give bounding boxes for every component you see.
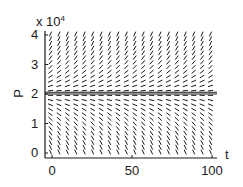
slope-segment: [116, 80, 121, 82]
slope-segment: [150, 150, 152, 155]
slope-segment: [150, 70, 154, 73]
slope-segment: [208, 104, 213, 106]
slope-segment: [124, 117, 128, 121]
slope-segment: [183, 108, 188, 111]
slope-segment: [200, 75, 204, 78]
slope-segment: [133, 65, 137, 69]
slope-segment: [83, 140, 86, 145]
slope-segment: [208, 70, 212, 73]
slope-segment: [125, 122, 128, 126]
slope-segment: [99, 126, 102, 130]
y-tick-label: 1: [31, 117, 38, 130]
slope-segment: [66, 56, 69, 60]
slope-segment: [75, 145, 77, 150]
slope-segment: [66, 65, 70, 69]
slope-segment: [65, 117, 69, 121]
slope-segment: [150, 117, 154, 121]
slope-segment: [99, 56, 102, 60]
slope-segment: [100, 145, 102, 150]
slope-segment: [108, 131, 111, 135]
slope-segment: [66, 140, 69, 145]
slope-segment: [192, 60, 195, 64]
slope-segment: [108, 126, 111, 130]
slope-segment: [192, 140, 195, 145]
slope-segment: [159, 46, 162, 50]
slope-segment: [150, 60, 153, 64]
slope-segment: [142, 46, 145, 50]
slope-segment: [99, 108, 104, 111]
slope-segment: [48, 75, 52, 78]
slope-segment: [193, 150, 195, 155]
slope-segment: [159, 131, 162, 135]
slope-segment: [83, 60, 86, 64]
slope-segment: [175, 70, 179, 73]
slope-segment: [142, 41, 144, 46]
slope-segment: [91, 136, 94, 140]
slope-segment: [174, 80, 179, 82]
slope-segment: [208, 90, 213, 91]
slope-segment: [201, 32, 203, 37]
slope-segment: [82, 108, 87, 111]
slope-segment: [116, 108, 121, 111]
slope-segment: [149, 100, 154, 101]
slope-segment: [91, 60, 94, 64]
slope-segment: [99, 60, 102, 64]
slope-segment: [91, 41, 93, 46]
slope-segment: [192, 131, 195, 135]
slope-segment: [183, 122, 186, 126]
slope-segment: [167, 140, 170, 145]
slope-segment: [75, 150, 77, 155]
slope-segment: [184, 126, 187, 130]
slope-segment: [83, 41, 85, 46]
slope-segment: [74, 113, 78, 116]
slope-segment: [58, 145, 60, 150]
slope-segment: [159, 145, 161, 150]
slope-segment: [58, 32, 60, 37]
slope-segment: [158, 113, 162, 116]
slope-segment: [200, 80, 205, 82]
slope-segment: [125, 46, 128, 50]
slope-segment: [73, 90, 78, 91]
slope-segment: [132, 85, 137, 87]
slope-segment: [74, 65, 78, 69]
slope-segment: [100, 32, 102, 37]
slope-segment: [74, 126, 77, 130]
y-tick-label: 3: [31, 58, 38, 71]
slope-segment: [192, 56, 195, 60]
slope-segment: [66, 122, 69, 126]
slope-segment: [66, 36, 68, 41]
slope-segment: [150, 36, 152, 41]
slope-segment: [125, 32, 127, 37]
slope-segment: [74, 51, 77, 55]
equilibrium-lines: [45, 92, 217, 94]
slope-segment: [73, 100, 78, 101]
slope-segment: [91, 113, 95, 116]
slope-segment: [125, 140, 128, 145]
slope-segment: [209, 60, 212, 64]
slope-segment: [91, 70, 95, 73]
slope-segment: [57, 56, 60, 60]
y-axis-label: P: [12, 89, 25, 98]
slope-segment: [209, 150, 211, 155]
slope-segment: [74, 70, 78, 73]
slope-segment: [99, 75, 103, 78]
slope-segment: [150, 126, 153, 130]
x-tick-label: 50: [117, 164, 147, 177]
slope-segment: [125, 131, 128, 135]
slope-segment: [166, 104, 171, 106]
slope-segment: [159, 51, 162, 55]
slope-segment: [125, 51, 128, 55]
slope-segment: [167, 136, 170, 140]
slope-segment: [107, 108, 112, 111]
slope-segment: [166, 75, 170, 78]
slope-segment: [107, 85, 112, 87]
slope-segment: [107, 75, 111, 78]
slope-segment: [184, 56, 187, 60]
slope-segment: [133, 51, 136, 55]
slope-field: [48, 32, 213, 155]
slope-segment: [167, 122, 170, 126]
slope-segment: [150, 32, 152, 37]
slope-segment: [66, 131, 69, 135]
slope-segment: [150, 131, 153, 135]
slope-segment: [83, 145, 85, 150]
